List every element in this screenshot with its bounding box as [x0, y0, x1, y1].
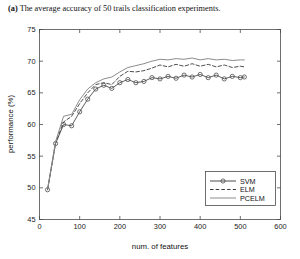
x-tick-label: 600: [274, 222, 286, 231]
chart-legend: SVMELMPCELM: [206, 172, 276, 206]
x-tick-label: 400: [194, 222, 206, 231]
x-tick-label: 0: [37, 222, 41, 231]
caption-label: (a): [8, 4, 18, 13]
y-axis-title: performance (%): [6, 95, 15, 153]
series-line-pcelm: [48, 58, 245, 189]
line-chart: 45505560657075 0100200300400500600 num. …: [0, 18, 300, 259]
x-tick-label: 300: [154, 222, 166, 231]
y-tick-label: 65: [27, 88, 35, 97]
figure-caption: (a) The average accuracy of 50 trails cl…: [8, 3, 296, 14]
y-tick-label: 75: [27, 25, 35, 34]
y-tick-label: 70: [27, 57, 35, 66]
x-tick-label: 200: [114, 222, 126, 231]
y-tick-label: 55: [27, 152, 35, 161]
y-tick-label: 45: [27, 215, 35, 224]
y-tick-label: 60: [27, 120, 35, 129]
x-axis-title: num. of features: [132, 242, 188, 251]
caption-text: The average accuracy of 50 trails classi…: [20, 4, 221, 13]
x-tick-label: 100: [73, 222, 85, 231]
figure-panel: (a) The average accuracy of 50 trails cl…: [0, 0, 300, 259]
y-tick-label: 50: [27, 183, 35, 192]
legend-label-pcelm: PCELM: [240, 194, 265, 203]
chart-container: 45505560657075 0100200300400500600 num. …: [0, 18, 300, 259]
x-tick-label: 500: [234, 222, 246, 231]
